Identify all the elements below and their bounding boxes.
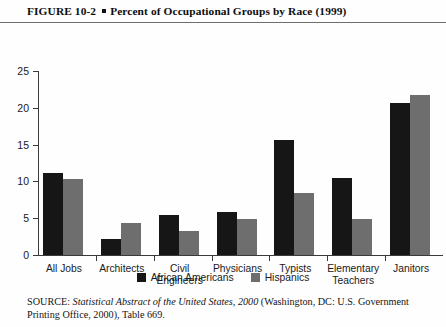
y-tick-label: 5 bbox=[23, 212, 29, 224]
legend-swatch bbox=[137, 273, 146, 282]
y-tick-label: 0 bbox=[23, 249, 29, 261]
legend-item: African Americans bbox=[137, 272, 234, 283]
chart-legend: African AmericansHispanics bbox=[0, 272, 446, 283]
figure-header: FIGURE 10-2Percent of Occupational Group… bbox=[0, 0, 446, 21]
bar bbox=[390, 103, 410, 255]
bar-group bbox=[274, 71, 314, 255]
bar bbox=[352, 219, 372, 255]
bar bbox=[410, 95, 430, 255]
legend-label: Hispanics bbox=[265, 272, 310, 283]
chart-area: 0510152025 All JobsArchitectsCivilEngine… bbox=[0, 23, 446, 245]
y-tick-mark bbox=[33, 181, 39, 182]
y-axis-line bbox=[38, 71, 39, 256]
legend-label: African Americans bbox=[151, 272, 234, 283]
y-tick: 5 bbox=[33, 218, 39, 219]
figure-number: FIGURE 10-2 bbox=[27, 5, 96, 17]
y-tick-label: 20 bbox=[17, 102, 29, 114]
y-tick: 25 bbox=[33, 71, 39, 72]
bar-group bbox=[332, 71, 372, 255]
x-tick-mark bbox=[269, 256, 270, 261]
bar bbox=[63, 179, 83, 255]
bar-group bbox=[390, 71, 430, 255]
bar bbox=[332, 178, 352, 255]
bar bbox=[121, 223, 141, 255]
bar-group bbox=[217, 71, 257, 255]
y-tick-mark bbox=[33, 255, 39, 256]
y-tick: 0 bbox=[33, 255, 39, 256]
bar-group bbox=[101, 71, 141, 255]
square-bullet-icon bbox=[102, 9, 106, 13]
x-axis-line bbox=[38, 255, 443, 256]
x-tick-mark bbox=[385, 256, 386, 261]
y-tick-mark bbox=[33, 218, 39, 219]
y-tick-label: 25 bbox=[17, 65, 29, 77]
y-tick: 15 bbox=[33, 145, 39, 146]
x-tick-mark bbox=[212, 256, 213, 261]
y-tick-mark bbox=[33, 145, 39, 146]
bar bbox=[179, 231, 199, 255]
bar bbox=[159, 215, 179, 255]
x-tick-mark bbox=[327, 256, 328, 261]
bar-group bbox=[43, 71, 83, 255]
figure-title: Percent of Occupational Groups by Race (… bbox=[110, 5, 346, 17]
bar bbox=[237, 219, 257, 255]
x-tick-mark bbox=[154, 256, 155, 261]
y-tick: 20 bbox=[33, 108, 39, 109]
bar bbox=[101, 239, 121, 255]
y-tick: 10 bbox=[33, 181, 39, 182]
bar bbox=[43, 173, 63, 255]
y-tick-label: 15 bbox=[17, 139, 29, 151]
source-publication-title: Statistical Abstract of the United State… bbox=[73, 296, 259, 307]
bar bbox=[294, 193, 314, 255]
y-tick-mark bbox=[33, 71, 39, 72]
x-tick-mark bbox=[96, 256, 97, 261]
source-note: SOURCE: Statistical Abstract of the Unit… bbox=[27, 296, 434, 321]
source-prefix: SOURCE: bbox=[27, 296, 70, 307]
legend-swatch bbox=[251, 273, 260, 282]
y-tick-label: 10 bbox=[17, 175, 29, 187]
bar bbox=[217, 212, 237, 255]
bar bbox=[274, 140, 294, 255]
bar-group bbox=[159, 71, 199, 255]
legend-item: Hispanics bbox=[251, 272, 310, 283]
y-tick-mark bbox=[33, 108, 39, 109]
